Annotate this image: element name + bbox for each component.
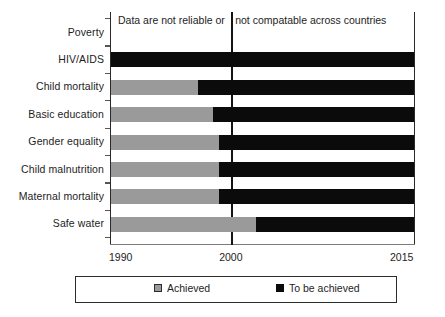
bar-segment-achieved [111,217,256,232]
y-axis-tick [105,237,110,238]
y-axis-tick [105,73,110,74]
category-label: Maternal mortality [0,191,104,202]
bar-segment-to-be-achieved [219,135,414,150]
category-axis-labels: PovertyHIV/AIDSChild mortalityBasic educ… [0,0,104,250]
plot-area: Data are not reliable or not compatable … [110,12,415,245]
legend-label-to-be-achieved: To be achieved [289,282,360,294]
legend-item-to-be-achieved: To be achieved [276,282,360,294]
chart-legend: Achieved To be achieved [75,276,397,303]
category-label: Child mortality [0,81,104,92]
category-label: Poverty [0,27,104,38]
stacked-bar [111,52,414,67]
y-axis-tick [105,100,110,101]
bar-segment-to-be-achieved [111,52,414,67]
legend-item-achieved: Achieved [154,282,210,294]
y-axis-tick [105,45,110,46]
bar-segment-to-be-achieved [213,107,414,122]
category-label: Gender equality [0,136,104,147]
legend-swatch-achieved-icon [154,284,162,292]
y-axis-tick [105,155,110,156]
bar-segment-to-be-achieved [256,217,414,232]
mdg-progress-chart: PovertyHIV/AIDSChild mortalityBasic educ… [0,0,445,317]
annotation-text-left: Data are not reliable or [118,14,225,26]
y-axis-tick [105,128,110,129]
stacked-bar [111,107,414,122]
stacked-bar [111,80,414,95]
x-axis-line [110,244,415,245]
bar-segment-achieved [111,80,198,95]
x-tick-label: 2000 [219,251,242,263]
y-axis-tick [105,18,110,19]
y-axis-tick [105,182,110,183]
y-axis-line [110,12,111,245]
stacked-bar [111,135,414,150]
legend-swatch-to-be-achieved-icon [276,284,284,292]
bar-segment-to-be-achieved [219,162,414,177]
plot-right-border [414,12,415,245]
reference-line-2000 [231,12,233,245]
bar-segment-achieved [111,189,219,204]
bar-segment-achieved [111,107,213,122]
bar-segment-to-be-achieved [219,189,414,204]
bar-segment-to-be-achieved [198,80,414,95]
category-label: Basic education [0,109,104,120]
category-label: HIV/AIDS [0,54,104,65]
y-axis-tick [105,210,110,211]
bar-segment-achieved [111,162,219,177]
category-label: Safe water [0,218,104,229]
stacked-bar [111,189,414,204]
x-tick-label: 2015 [390,251,413,263]
annotation-text-right: not compatable across countries [235,14,386,26]
x-tick-label: 1990 [109,251,132,263]
stacked-bar [111,217,414,232]
stacked-bar [111,162,414,177]
legend-label-achieved: Achieved [167,282,210,294]
category-label: Child malnutrition [0,164,104,175]
bar-segment-achieved [111,135,219,150]
